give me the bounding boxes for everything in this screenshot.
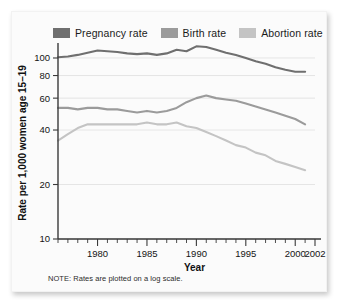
svg-text:100: 100: [34, 52, 50, 63]
data-series: [58, 46, 305, 170]
svg-text:1980: 1980: [87, 248, 108, 259]
svg-text:80: 80: [39, 70, 50, 81]
svg-text:2002: 2002: [304, 248, 325, 259]
svg-text:1990: 1990: [186, 248, 207, 259]
plot-area: 1020406080100 198019851990199520002002 R…: [0, 0, 343, 303]
svg-text:1995: 1995: [235, 248, 256, 259]
svg-text:40: 40: [39, 124, 50, 135]
x-axis-title: Year: [184, 262, 205, 273]
gridlines: [58, 58, 315, 239]
figure: Pregnancy rate Birth rate Abortion rate …: [0, 0, 343, 303]
x-axis-ticks: 198019851990199520002002: [58, 239, 326, 259]
y-axis-title: Rate per 1,000 women age 15–19: [17, 65, 28, 221]
svg-text:10: 10: [39, 233, 50, 244]
chart-note: NOTE: Rates are plotted on a log scale.: [48, 274, 183, 283]
svg-text:2000: 2000: [285, 248, 306, 259]
svg-text:1985: 1985: [136, 248, 157, 259]
svg-text:60: 60: [39, 93, 50, 104]
svg-text:20: 20: [39, 179, 50, 190]
y-axis-ticks: 1020406080100: [34, 52, 58, 244]
line-chart: 1020406080100 198019851990199520002002 R…: [0, 0, 343, 303]
